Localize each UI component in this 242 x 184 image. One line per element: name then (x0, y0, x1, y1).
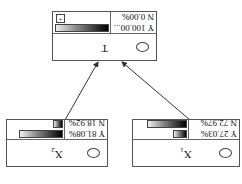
prob-n-label: N 72.97% (191, 120, 237, 128)
node-bars (7, 120, 64, 140)
node-probabilities: Y 100.00... N 0.00% (110, 12, 156, 34)
bar-n (53, 120, 63, 128)
edge-x1-t (122, 62, 190, 120)
expand-icon[interactable]: + (56, 14, 65, 23)
node-x2[interactable]: X2 Y 81.08% N 18.92% (6, 119, 108, 167)
prob-y-label: Y 27.03% (191, 128, 237, 139)
node-probabilities: Y 27.03% N 72.97% (188, 120, 239, 140)
prob-y-label: Y 81.08% (67, 128, 105, 139)
node-body: Y 27.03% N 72.97% (133, 120, 239, 140)
prob-n-label: N 0.00% (113, 12, 154, 22)
bayesian-network-canvas: X1 Y 27.03% N 72.97% X2 Y 81.08% N 18.92… (0, 0, 242, 184)
node-body: Y 81.08% N 18.92% (7, 120, 107, 140)
node-probabilities: Y 81.08% N 18.92% (64, 120, 107, 140)
edge-x2-t (65, 62, 98, 120)
node-x1[interactable]: X1 Y 27.03% N 72.97% (132, 119, 240, 167)
node-header: X1 (133, 139, 239, 166)
bar-y (19, 130, 63, 138)
bar-n (147, 120, 187, 128)
node-name: T (53, 43, 156, 55)
prob-n-label: N 18.92% (67, 120, 105, 128)
prob-y-label: Y 100.00... (113, 22, 154, 33)
node-header: T (53, 33, 156, 60)
node-name: X1 (133, 146, 239, 161)
bar-y (173, 130, 187, 138)
node-header: X2 (7, 139, 107, 166)
node-body: Y 100.00... N 0.00% + (53, 12, 156, 34)
bar-y (55, 24, 109, 32)
node-bars (133, 120, 188, 140)
node-name: X2 (7, 146, 107, 161)
node-t[interactable]: T Y 100.00... N 0.00% + (52, 11, 157, 61)
